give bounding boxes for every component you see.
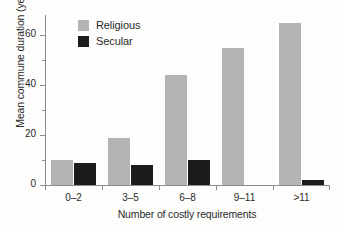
y-axis-tick-label: 0: [30, 178, 36, 189]
legend-label: Secular: [96, 35, 133, 47]
legend-label: Religious: [96, 19, 140, 31]
x-axis-tick: [329, 186, 330, 190]
bar-chart-figure: Mean commune duration (years) 0204060 0–…: [0, 0, 342, 232]
legend-item: Religious: [78, 17, 140, 33]
bar-secular: [302, 180, 324, 185]
bar-religious: [51, 160, 73, 185]
legend-item: Secular: [78, 33, 140, 49]
bar-secular: [188, 160, 210, 185]
x-axis-tick-label: 3–5: [122, 192, 139, 203]
x-axis-tick: [216, 186, 217, 190]
y-axis-minor-tick: [42, 60, 46, 61]
bar-secular: [74, 163, 96, 186]
x-axis-tick-label: 9–11: [234, 192, 256, 203]
y-axis-tick-label: 40: [25, 78, 36, 89]
x-axis-tick: [159, 186, 160, 190]
x-axis-tick: [102, 186, 103, 190]
bar-religious: [108, 138, 130, 186]
y-axis-line: [45, 15, 46, 186]
chart-legend: ReligiousSecular: [78, 17, 140, 49]
y-axis-tick-label: 20: [25, 128, 36, 139]
y-axis-tick-label: 60: [25, 28, 36, 39]
y-axis-minor-tick: [42, 110, 46, 111]
legend-swatch-religious: [78, 20, 89, 31]
plot-area: 0204060 0–23–56–89–11>11 ReligiousSecula…: [45, 15, 330, 186]
y-axis-title: Mean commune duration (years): [14, 0, 26, 134]
x-axis-tick: [273, 186, 274, 190]
bar-religious: [279, 23, 301, 186]
y-axis-minor-tick: [42, 160, 46, 161]
y-axis-tick: 60: [40, 35, 45, 36]
x-axis-line: [45, 185, 330, 186]
bar-secular: [131, 165, 153, 185]
bar-religious: [222, 48, 244, 186]
bar-religious: [165, 75, 187, 185]
x-axis-tick-label: >11: [293, 192, 309, 203]
y-axis-tick: 20: [40, 135, 45, 136]
x-axis-tick-label: 0–2: [65, 192, 82, 203]
x-axis-title: Number of costly requirements: [44, 208, 330, 220]
x-axis-tick: [45, 186, 46, 190]
x-axis-tick-label: 6–8: [179, 192, 196, 203]
legend-swatch-secular: [78, 36, 89, 47]
y-axis-tick: 40: [40, 85, 45, 86]
